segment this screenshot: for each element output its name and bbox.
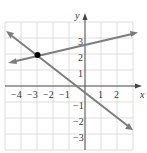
y-tick: −1: [73, 100, 84, 111]
y-tick: 1: [78, 68, 83, 79]
x-tick: 2: [114, 89, 119, 100]
y-axis-arrow-icon: [83, 13, 88, 20]
intersection-point: [35, 52, 41, 58]
y-axis-label: y: [74, 10, 80, 21]
x-tick: −1: [59, 89, 70, 100]
y-tick: 2: [78, 52, 83, 63]
x-tick: −4: [11, 89, 22, 100]
coordinate-plane: x y −4 −3 −2 −1 1 2 3 2 1 −1 −2 −3: [0, 0, 147, 153]
x-tick: −3: [27, 89, 38, 100]
x-axis-arrow-icon: [135, 84, 142, 89]
arrowhead-icon: [130, 31, 138, 37]
x-axis-label: x: [139, 89, 145, 100]
y-tick: −3: [73, 132, 84, 143]
y-tick: −2: [73, 116, 84, 127]
arrowhead-icon: [8, 58, 17, 64]
decreasing-line: [6, 31, 133, 130]
x-tick: 1: [98, 89, 103, 100]
x-tick: −2: [43, 89, 54, 100]
